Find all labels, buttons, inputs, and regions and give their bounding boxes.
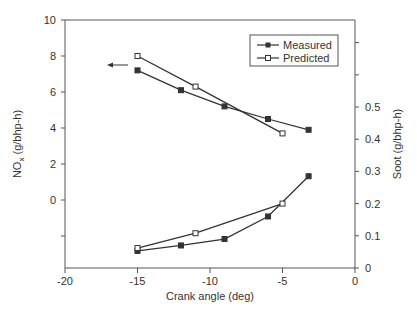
legend: Measured Predicted xyxy=(250,35,338,66)
series-measured-nox xyxy=(135,68,311,132)
open-square-marker-icon xyxy=(280,201,285,206)
filled-square-marker-icon xyxy=(306,174,311,179)
series-line xyxy=(138,70,309,129)
left-y-tick-label: 4 xyxy=(50,122,56,134)
right-y-axis-ticks: 00.10.20.30.40.5 xyxy=(355,43,380,274)
filled-square-marker-icon xyxy=(222,104,227,109)
left-y-axis-title: NOx (g/bhp-h) xyxy=(11,110,26,178)
x-tick-label: -5 xyxy=(278,275,288,287)
chart-svg: -20-15-10-50 1086420 00.10.20.30.40.5 Cr… xyxy=(0,0,417,320)
filled-square-marker-icon xyxy=(135,68,140,73)
right-y-axis-title: Soot (g/bhp-h) xyxy=(391,109,403,179)
open-square-marker-icon xyxy=(135,54,140,59)
left-y-axis-ticks: 1086420 xyxy=(44,14,65,236)
left-y-tick-label: 2 xyxy=(50,158,56,170)
x-tick-label: -20 xyxy=(57,275,73,287)
filled-square-marker-icon xyxy=(266,117,271,122)
filled-square-marker-icon xyxy=(179,243,184,248)
filled-square-marker-icon xyxy=(179,88,184,93)
right-y-tick-label: 0.2 xyxy=(365,198,380,210)
series-layer xyxy=(135,54,311,254)
open-square-marker-icon xyxy=(135,246,140,251)
open-square-marker-icon xyxy=(266,56,271,61)
filled-square-marker-icon xyxy=(266,214,271,219)
right-y-tick-label: 0 xyxy=(365,262,371,274)
x-tick-label: 0 xyxy=(352,275,358,287)
x-axis-title: Crank angle (deg) xyxy=(166,290,254,302)
right-y-tick-label: 0.3 xyxy=(365,165,380,177)
right-y-tick-label: 0.1 xyxy=(365,230,380,242)
series-predicted-soot xyxy=(135,201,285,250)
right-y-tick-label: 0.4 xyxy=(365,133,380,145)
left-arrow-icon xyxy=(107,63,128,68)
x-axis-ticks: -20-15-10-50 xyxy=(57,268,358,287)
open-square-marker-icon xyxy=(193,231,198,236)
left-y-tick-label: 10 xyxy=(44,14,56,26)
left-y-tick-label: 0 xyxy=(50,194,56,206)
open-square-marker-icon xyxy=(280,131,285,136)
legend-label-measured: Measured xyxy=(283,39,332,51)
filled-square-marker-icon xyxy=(266,43,271,48)
chart-container: -20-15-10-50 1086420 00.10.20.30.40.5 Cr… xyxy=(0,0,417,320)
left-y-tick-label: 6 xyxy=(50,86,56,98)
x-tick-label: -15 xyxy=(130,275,146,287)
filled-square-marker-icon xyxy=(222,237,227,242)
right-y-tick-label: 0.5 xyxy=(365,101,380,113)
left-y-tick-label: 8 xyxy=(50,50,56,62)
legend-label-predicted: Predicted xyxy=(283,52,329,64)
series-line xyxy=(138,56,283,133)
x-tick-label: -10 xyxy=(202,275,218,287)
left-y-title-main: NO xyxy=(11,161,23,178)
left-y-title-units: (g/bhp-h) xyxy=(11,110,23,158)
filled-square-marker-icon xyxy=(306,127,311,132)
open-square-marker-icon xyxy=(193,84,198,89)
